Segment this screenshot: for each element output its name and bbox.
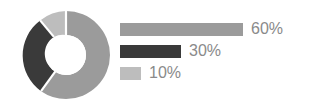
legend-item-60[interactable]: 60% <box>120 18 283 40</box>
legend-label-10: 10% <box>149 65 181 81</box>
donut-chart <box>20 9 112 101</box>
donut-chart-figure: 60% 30% 10% <box>0 0 309 106</box>
legend-label-60: 60% <box>251 21 283 37</box>
legend-item-10[interactable]: 10% <box>120 62 181 84</box>
donut-hole <box>46 35 86 75</box>
chart-legend: 60% 30% 10% <box>120 18 309 90</box>
legend-item-30[interactable]: 30% <box>120 40 221 62</box>
legend-bar-60 <box>120 23 243 36</box>
legend-bar-10 <box>120 67 141 80</box>
legend-bar-30 <box>120 45 181 58</box>
legend-label-30: 30% <box>189 43 221 59</box>
